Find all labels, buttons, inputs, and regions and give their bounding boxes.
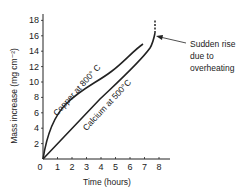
x-tick-label: 8: [156, 162, 161, 172]
x-tick-label: 4: [98, 162, 103, 172]
annotation-line: Sudden rise: [190, 39, 236, 49]
x-tick-label: 7: [142, 162, 147, 172]
x-axis-title: Time (hours): [83, 177, 131, 187]
calcium-curve: [43, 33, 155, 159]
annotation-arrow: [156, 35, 186, 43]
y-tick-label: 2: [34, 139, 39, 149]
x-tick-label: 1: [55, 162, 60, 172]
annotation-text: Sudden rise due to overheating: [190, 39, 236, 73]
x-tick-labels: 0 1 2 3 4 5 6 7 8: [37, 162, 161, 172]
arrowhead-icon: [156, 35, 163, 40]
y-tick-label: 4: [34, 123, 39, 133]
axes: [43, 14, 170, 159]
y-tick-label: 10: [29, 77, 39, 87]
oxidation-chart: 2 4 6 8 10 12 14 16 18 0 1 2 3 4 5 6 7 8…: [0, 0, 246, 193]
y-tick-label: 6: [34, 108, 39, 118]
x-tick-label: 6: [127, 162, 132, 172]
y-tick-label: 16: [29, 31, 39, 41]
y-tick-label: 18: [29, 15, 39, 25]
y-tick-label: 12: [29, 62, 39, 72]
annotation-line: due to: [190, 51, 214, 61]
x-tick-label: 0: [37, 162, 42, 172]
x-tick-label: 3: [84, 162, 89, 172]
y-tick-label: 14: [29, 46, 39, 56]
x-tick-label: 5: [113, 162, 118, 172]
y-axis-title: Mass increase (mg cm⁻²): [9, 48, 19, 144]
y-tick-labels: 2 4 6 8 10 12 14 16 18: [29, 15, 39, 148]
y-tick-label: 8: [34, 92, 39, 102]
copper-curve: [43, 44, 143, 159]
annotation-line: overheating: [190, 63, 235, 73]
x-tick-label: 2: [69, 162, 74, 172]
